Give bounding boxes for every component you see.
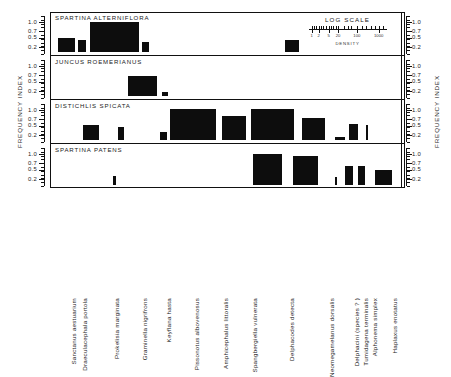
axis-tick-major — [39, 135, 44, 136]
axis-tick-minor — [407, 54, 410, 55]
axis-tick-minor — [41, 159, 44, 160]
axis-tick-minor — [41, 20, 44, 21]
species-axis: Sanctanus aestuariumDraeculacephala port… — [50, 190, 405, 302]
axis-tick-minor — [407, 94, 410, 95]
legend-tick-major — [357, 26, 358, 33]
axis-tick-label: 0.7 — [412, 160, 426, 166]
legend-tick-major — [379, 26, 380, 33]
bar — [349, 124, 358, 140]
axis-tick-minor — [41, 104, 44, 105]
bar — [335, 137, 345, 140]
axis-tick-minor — [41, 175, 44, 176]
legend-tick-major — [329, 26, 330, 33]
axis-tick-minor — [41, 60, 44, 61]
legend-tick-labels: 125201001000 — [309, 33, 387, 40]
bar-group — [50, 100, 405, 143]
legend-tick-minor — [362, 26, 363, 30]
legend-tick-major — [338, 26, 339, 33]
axis-tick-minor — [407, 71, 410, 72]
legend-tick-minor — [314, 26, 315, 30]
axis-tick-minor — [41, 83, 44, 84]
species-label: Delphacini (species ? ) — [353, 298, 360, 366]
axis-tick-label: 0.2 — [412, 176, 426, 182]
axis-tick-minor — [41, 39, 44, 40]
axis-tick-minor — [407, 112, 410, 113]
axis-tick-label: 1.0 — [23, 19, 37, 25]
legend-tick-label: 1000 — [374, 33, 383, 38]
legend-tick-minor — [331, 26, 332, 30]
axis-tick-minor — [41, 54, 44, 55]
axis-tick-minor — [41, 71, 44, 72]
axis-tick-minor — [41, 156, 44, 157]
bar — [162, 92, 168, 96]
axis-tick-label: 0.7 — [23, 72, 37, 78]
bar — [170, 109, 216, 140]
species-label: Spangbergiella vulnerata — [251, 298, 258, 372]
bar — [251, 109, 294, 140]
legend-tick-label: 1 — [310, 33, 312, 38]
axis-tick-label: 1.0 — [412, 107, 426, 113]
bar — [90, 22, 139, 52]
axis-spine-left — [44, 16, 45, 54]
bar-group — [50, 56, 405, 99]
axis-tick-major — [39, 126, 44, 127]
axis-tick-label: 0.7 — [23, 28, 37, 34]
species-label: Sanctanus aestuarium — [70, 298, 77, 365]
axis-tick-minor — [407, 115, 410, 116]
axis-tick-minor — [41, 24, 44, 25]
legend-title: LOG SCALE — [300, 16, 395, 23]
axis-tick-minor — [407, 50, 410, 51]
axis-tick-label: 0.5 — [412, 78, 426, 84]
axis-tick-minor — [41, 131, 44, 132]
axis-tick-minor — [407, 98, 410, 99]
axis-tick-minor — [41, 94, 44, 95]
bar — [118, 127, 124, 140]
axis-tick-major — [39, 119, 44, 120]
axis-tick-minor — [41, 87, 44, 88]
species-label: Prokelisia marginata — [113, 298, 120, 359]
bar — [58, 38, 75, 52]
axis-tick-label: 1.0 — [412, 63, 426, 69]
species-label: Graminella nigrifrons — [141, 298, 148, 360]
legend-tick-minor — [326, 26, 327, 30]
axis-tick-major — [39, 163, 44, 164]
axis-tick-label: 0.5 — [23, 78, 37, 84]
axis-tick-minor — [41, 182, 44, 183]
axis-tick-minor — [41, 108, 44, 109]
legend-tick-minor — [323, 26, 324, 30]
axis-tick-major — [39, 31, 44, 32]
legend-tick-label: 20 — [336, 33, 341, 38]
bar — [128, 76, 157, 96]
bar — [285, 40, 299, 52]
axis-tick-major — [39, 75, 44, 76]
species-label: Amphicephalus littoralis — [222, 298, 229, 369]
axis-tick-minor — [407, 35, 410, 36]
legend-scale-bar — [309, 26, 387, 33]
axis-tick-minor — [407, 20, 410, 21]
species-label: Pissonotus albovenosus — [193, 298, 200, 370]
legend-tick-minor — [333, 26, 334, 30]
axis-tick-minor — [407, 39, 410, 40]
axis-tick-label: 0.7 — [412, 116, 426, 122]
bar — [160, 132, 167, 140]
axis-tick-major — [39, 110, 44, 111]
legend-tick-minor — [371, 26, 372, 30]
axis-tick-major — [39, 82, 44, 83]
axis-tick-major — [39, 47, 44, 48]
axis-tick-minor — [407, 24, 410, 25]
axis-tick-label: 0.5 — [412, 166, 426, 172]
axis-tick-label: 0.2 — [23, 176, 37, 182]
axis-tick-major — [39, 66, 44, 67]
axis-tick-minor — [407, 159, 410, 160]
axis-tick-minor — [407, 148, 410, 149]
axis-tick-minor — [407, 64, 410, 65]
axis-tick-minor — [407, 79, 410, 80]
axis-tick-minor — [407, 83, 410, 84]
axis-spine-left — [44, 60, 45, 98]
axis-tick-minor — [407, 182, 410, 183]
legend-tick-minor — [348, 26, 349, 30]
axis-tick-minor — [407, 27, 410, 28]
species-label: Haplaxus enotatus — [391, 298, 398, 354]
species-label: Neomegamelanus dorsalis — [328, 298, 335, 377]
bar — [375, 170, 392, 186]
